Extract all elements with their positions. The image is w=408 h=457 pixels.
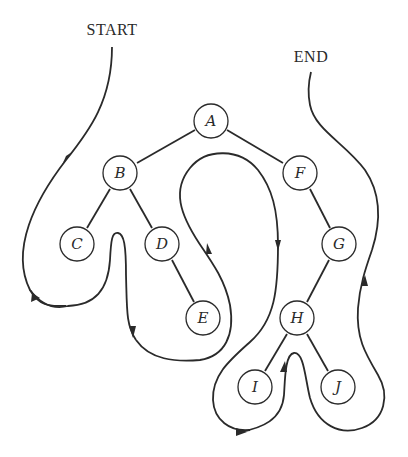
node-b: B (103, 156, 137, 190)
path-start-to-c (23, 47, 112, 306)
node-label: E (197, 309, 209, 327)
edge-b-c (87, 189, 110, 228)
node-label: G (333, 235, 345, 253)
node-h: H (280, 301, 314, 335)
path-to-end (308, 72, 378, 250)
node-f: F (283, 156, 317, 190)
node-label: F (294, 164, 306, 182)
edge-a-f (227, 130, 283, 163)
node-label: I (251, 378, 259, 396)
edge-b-d (130, 189, 152, 228)
edge-a-b (137, 130, 195, 163)
edge-h-j (307, 334, 328, 371)
arrow-icon (206, 243, 212, 254)
node-c: C (60, 227, 94, 261)
path-f-h-descent (213, 245, 278, 430)
node-a: A (194, 104, 228, 138)
node-label: H (289, 309, 304, 327)
node-j: J (321, 370, 355, 404)
node-label: A (204, 112, 217, 130)
node-i: I (238, 370, 272, 404)
node-label: C (71, 235, 83, 253)
node-d: D (145, 227, 179, 261)
node-label: D (155, 235, 168, 253)
start-label: START (87, 21, 138, 38)
arrow-icon (275, 240, 281, 251)
path-i-j-loop (240, 250, 384, 432)
node-e: E (186, 301, 220, 335)
edge-f-g (310, 189, 330, 228)
edge-g-h (307, 260, 329, 302)
tree-traversal-diagram: A B F C D E G H I J START END (0, 0, 408, 457)
arrow-icon (280, 361, 287, 372)
edge-d-e (172, 260, 194, 302)
node-label: B (113, 164, 125, 182)
end-label: END (294, 48, 328, 65)
arrow-icon (129, 326, 136, 338)
node-g: G (322, 227, 356, 261)
